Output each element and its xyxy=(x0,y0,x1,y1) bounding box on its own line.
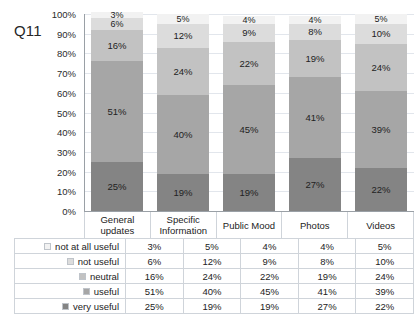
category-header-text: Specific xyxy=(167,214,200,225)
bar-segment: 22% xyxy=(355,168,407,211)
legend-row-label: not at all useful xyxy=(15,239,126,254)
chart-page: Q11 100%90%80%70%60%50%40%30%20%10%0% 3%… xyxy=(0,0,420,318)
y-axis-tick-label: 70% xyxy=(57,68,76,79)
data-table-body: not at all useful3%5%4%4%5%not useful6%1… xyxy=(15,239,414,314)
table-cell: 4% xyxy=(298,239,356,254)
bar-stack: 3%6%16%51%25% xyxy=(91,12,143,211)
bar-segment: 39% xyxy=(355,91,407,168)
table-row: neutral16%24%22%19%24% xyxy=(15,269,414,284)
table-cell: 24% xyxy=(356,269,414,284)
legend-swatch-icon xyxy=(83,288,90,295)
y-axis-tick-label: 10% xyxy=(57,186,76,197)
table-row: not at all useful3%5%4%4%5% xyxy=(15,239,414,254)
bar-segment: 19% xyxy=(157,174,209,211)
bar-segment: 25% xyxy=(91,162,143,211)
table-cell: 24% xyxy=(183,269,241,284)
bar-segment: 22% xyxy=(223,42,275,85)
category-header-cell: SpecificInformation xyxy=(150,212,216,238)
table-cell: 4% xyxy=(241,239,299,254)
bar-column[interactable]: 4%9%22%45%19% xyxy=(218,14,280,211)
bar-segment: 4% xyxy=(223,16,275,24)
bar-segment: 40% xyxy=(157,95,209,174)
bar-segment: 41% xyxy=(289,77,341,158)
bar-segment: 8% xyxy=(289,24,341,40)
table-cell: 27% xyxy=(298,299,356,314)
category-header-cell: Photos xyxy=(281,212,347,238)
bar-segment: 24% xyxy=(157,48,209,95)
bar-column[interactable]: 3%6%16%51%25% xyxy=(86,14,148,211)
category-header-cell: Public Mood xyxy=(216,212,282,238)
y-axis-tick-label: 20% xyxy=(57,166,76,177)
legend-swatch-icon xyxy=(67,258,74,265)
y-axis-tick-label: 30% xyxy=(57,146,76,157)
category-header-text: Videos xyxy=(366,220,395,231)
table-cell: 19% xyxy=(183,299,241,314)
legend-row-label: neutral xyxy=(15,269,126,284)
category-header-row: GeneralupdatesSpecificInformationPublic … xyxy=(84,212,414,238)
category-header-text: updates xyxy=(100,225,134,236)
bar-column[interactable]: 5%10%24%39%22% xyxy=(350,14,412,211)
legend-swatch-icon xyxy=(44,243,51,250)
bar-stack: 5%12%24%40%19% xyxy=(157,14,209,211)
legend-label-text: very useful xyxy=(73,301,119,312)
table-row: useful51%40%45%41%39% xyxy=(15,284,414,299)
bar-segment: 4% xyxy=(289,16,341,24)
category-header-text: General xyxy=(100,214,134,225)
table-cell: 40% xyxy=(183,284,241,299)
y-axis-tick-label: 60% xyxy=(57,87,76,98)
table-cell: 5% xyxy=(183,239,241,254)
bar-column[interactable]: 4%8%19%41%27% xyxy=(284,14,346,211)
table-cell: 19% xyxy=(298,269,356,284)
table-cell: 5% xyxy=(356,239,414,254)
bar-segment: 24% xyxy=(355,44,407,91)
bar-stack: 4%9%22%45%19% xyxy=(223,16,275,211)
y-axis-tick-label: 0% xyxy=(62,206,76,217)
legend-swatch-icon xyxy=(79,273,86,280)
y-axis-tick-label: 50% xyxy=(57,107,76,118)
legend-row-label: not useful xyxy=(15,254,126,269)
bar-segment: 45% xyxy=(223,85,275,174)
table-cell: 41% xyxy=(298,284,356,299)
bar-segment: 19% xyxy=(289,40,341,77)
bar-column[interactable]: 5%12%24%40%19% xyxy=(152,14,214,211)
table-cell: 22% xyxy=(241,269,299,284)
bar-segment: 10% xyxy=(355,24,407,44)
table-cell: 51% xyxy=(126,284,184,299)
plot-area: 100%90%80%70%60%50%40%30%20%10%0% 3%6%16… xyxy=(84,14,414,211)
table-cell: 19% xyxy=(241,299,299,314)
table-cell: 16% xyxy=(126,269,184,284)
table-cell: 45% xyxy=(241,284,299,299)
bar-segment: 9% xyxy=(223,24,275,42)
legend-swatch-icon xyxy=(62,303,69,310)
y-axis-tick-label: 90% xyxy=(57,28,76,39)
legend-label-text: neutral xyxy=(90,271,119,282)
table-row: not useful6%12%9%8%10% xyxy=(15,254,414,269)
legend-label-text: useful xyxy=(94,286,119,297)
bar-stack: 5%10%24%39%22% xyxy=(355,14,407,211)
bar-group: 3%6%16%51%25%5%12%24%40%19%4%9%22%45%19%… xyxy=(84,14,414,211)
bar-stack: 4%8%19%41%27% xyxy=(289,16,341,211)
category-header-cell: Generalupdates xyxy=(84,212,150,238)
y-axis-tick-label: 40% xyxy=(57,127,76,138)
table-cell: 39% xyxy=(356,284,414,299)
bar-segment: 51% xyxy=(91,61,143,161)
table-cell: 3% xyxy=(126,239,184,254)
bar-segment: 19% xyxy=(223,174,275,211)
table-cell: 25% xyxy=(126,299,184,314)
bar-segment: 5% xyxy=(355,14,407,24)
table-cell: 6% xyxy=(126,254,184,269)
table-cell: 12% xyxy=(183,254,241,269)
legend-label-text: not at all useful xyxy=(55,241,119,252)
bar-segment: 16% xyxy=(91,30,143,62)
y-axis-tick-label: 100% xyxy=(52,9,76,20)
table-row: very useful25%19%19%27%22% xyxy=(15,299,414,314)
legend-row-label: useful xyxy=(15,284,126,299)
legend-row-label: very useful xyxy=(15,299,126,314)
legend-label-text: not useful xyxy=(78,256,119,267)
category-header-cell: Videos xyxy=(347,212,414,238)
table-cell: 9% xyxy=(241,254,299,269)
category-header-text: Photos xyxy=(300,220,330,231)
bar-segment: 5% xyxy=(157,14,209,24)
category-header-text: Information xyxy=(159,225,207,236)
bar-segment: 27% xyxy=(289,158,341,211)
